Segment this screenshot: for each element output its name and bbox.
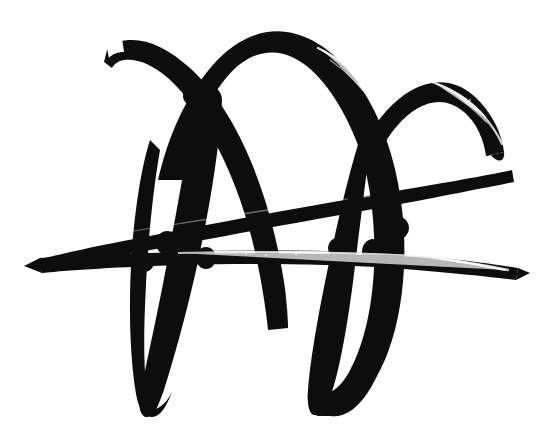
- right-outer-sweep-crossing: [389, 217, 409, 239]
- left-outer-sweep-crossing: [196, 247, 216, 269]
- right-arc-junction: [359, 120, 383, 142]
- left-loop-sweep-crossing: [156, 231, 178, 255]
- left-inner-sweep-crossing: [136, 252, 154, 272]
- artwork-canvas: [0, 0, 548, 440]
- brush-ink-illustration: [0, 0, 548, 440]
- upper-left-x-crossing: [183, 85, 209, 107]
